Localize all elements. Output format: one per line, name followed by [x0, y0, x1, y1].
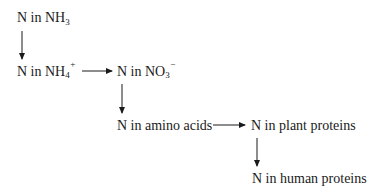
node-n-in-amino-acids: N in amino acids: [117, 118, 212, 134]
node-n-in-plant-proteins: N in plant proteins: [251, 118, 356, 134]
node-no3-subscript: 3: [165, 71, 170, 80]
node-nh4-text: N in NH: [17, 64, 65, 79]
node-nh3-subscript: 3: [65, 17, 70, 27]
node-no3-subsup: 3−: [165, 66, 177, 76]
node-n-in-no3: N in NO3−: [117, 64, 177, 80]
node-n-in-nh4: N in NH4+: [17, 64, 77, 80]
node-nh4-subsup: 4+: [65, 66, 77, 76]
node-n-in-nh3: N in NH3: [17, 10, 70, 26]
node-human-text: N in human proteins: [252, 171, 367, 186]
node-nh4-subscript: 4: [65, 71, 70, 80]
node-plant-text: N in plant proteins: [251, 118, 356, 133]
arrows-layer: [0, 0, 373, 196]
node-nh4-superscript: +: [70, 60, 75, 69]
node-no3-superscript: −: [170, 60, 175, 69]
node-amino-text: N in amino acids: [117, 118, 212, 133]
node-nh3-text: N in NH: [17, 10, 65, 25]
node-no3-text: N in NO: [117, 64, 165, 79]
node-n-in-human-proteins: N in human proteins: [252, 171, 367, 187]
